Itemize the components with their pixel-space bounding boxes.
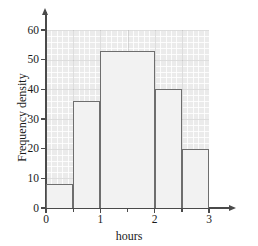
y-axis-tick — [41, 89, 46, 90]
histogram-bar — [155, 89, 182, 208]
x-axis-title: hours — [0, 229, 258, 244]
histogram-bar — [73, 101, 100, 208]
histogram-bar — [46, 184, 73, 208]
y-axis-tick — [41, 178, 46, 179]
x-axis-minor-tick — [73, 209, 74, 212]
x-axis-minor-tick — [127, 209, 128, 212]
x-axis-tick-label: 1 — [92, 214, 108, 226]
x-axis-tick-label: 3 — [201, 214, 217, 226]
y-axis-line — [45, 12, 47, 209]
histogram-bar — [100, 51, 154, 208]
y-axis-tick-label: 0 — [33, 203, 39, 215]
y-axis-tick — [41, 148, 46, 149]
y-axis-tick — [41, 29, 46, 30]
y-axis-tick — [41, 59, 46, 60]
y-axis-arrow-icon — [42, 8, 48, 15]
y-axis-tick-label: 60 — [28, 25, 40, 37]
x-axis-arrow-icon — [229, 205, 236, 211]
y-axis-tick — [41, 118, 46, 119]
histogram-bar — [182, 149, 209, 208]
x-axis-tick-label: 0 — [38, 214, 54, 226]
x-axis-minor-tick — [181, 209, 182, 212]
y-axis-title: Frequency density — [15, 43, 30, 193]
histogram-chart: 0102030405060 0123 hours Frequency densi… — [0, 0, 258, 246]
x-axis-tick-label: 2 — [147, 214, 163, 226]
